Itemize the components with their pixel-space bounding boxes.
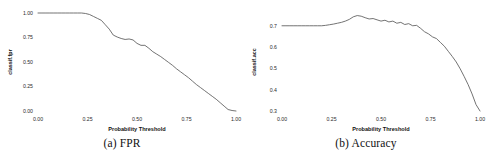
x-tick-label: 0.75 <box>181 116 191 122</box>
x-tick-label: 0.00 <box>33 116 43 122</box>
plot-area-fpr: 0.000.250.500.751.000.000.250.500.751.00… <box>0 0 244 136</box>
y-tick-label: 0.75 <box>23 34 33 40</box>
x-tick-label: 1.00 <box>475 116 485 122</box>
x-tick-label: 0.25 <box>82 116 92 122</box>
x-axis-title: Probability Threshold <box>108 126 166 132</box>
y-tick-label: 0.00 <box>23 108 33 114</box>
chart-accuracy: 0.30.40.50.60.70.000.250.500.751.00Proba… <box>244 0 488 136</box>
y-tick-label: 0.6 <box>270 44 277 50</box>
y-axis-title: classif.fpr <box>7 48 13 74</box>
y-tick-label: 0.5 <box>270 65 277 71</box>
caption-accuracy: (b) Accuracy <box>335 137 397 149</box>
y-axis-title: classif.acc <box>251 48 257 75</box>
chart-line-series <box>38 13 236 111</box>
figure-container: 0.000.250.500.751.000.000.250.500.751.00… <box>0 0 488 168</box>
y-tick-label: 0.7 <box>270 23 277 29</box>
y-tick-label: 0.4 <box>270 87 277 93</box>
chart-line-series <box>282 16 480 111</box>
y-tick-label: 1.00 <box>23 10 33 16</box>
x-tick-label: 0.50 <box>132 116 142 122</box>
chart-fpr: 0.000.250.500.751.000.000.250.500.751.00… <box>0 0 244 136</box>
x-tick-label: 0.00 <box>277 116 287 122</box>
y-tick-label: 0.25 <box>23 83 33 89</box>
x-tick-label: 1.00 <box>231 116 241 122</box>
subfigure-fpr: 0.000.250.500.751.000.000.250.500.751.00… <box>0 0 244 168</box>
y-tick-label: 0.50 <box>23 59 33 65</box>
subfigure-accuracy: 0.30.40.50.60.70.000.250.500.751.00Proba… <box>244 0 488 168</box>
x-tick-label: 0.25 <box>326 116 336 122</box>
y-tick-label: 0.3 <box>270 108 277 114</box>
x-tick-label: 0.75 <box>425 116 435 122</box>
plot-area-accuracy: 0.30.40.50.60.70.000.250.500.751.00Proba… <box>244 0 488 136</box>
x-tick-label: 0.50 <box>376 116 386 122</box>
x-axis-title: Probability Threshold <box>352 126 410 132</box>
caption-fpr: (a) FPR <box>103 137 140 149</box>
